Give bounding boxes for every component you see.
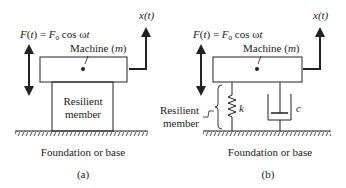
- panel-a: F(t) = F0 cos ωt Machine (m) x(t) Resili…: [15, 9, 155, 181]
- panel-b: F(t) = F0 cos ωt Machine (m) x(t) k c Re…: [160, 9, 331, 181]
- force-label: F(t) = F0 cos ωt: [19, 28, 90, 42]
- force-label: F(t) = F0 cos ωt: [192, 28, 263, 42]
- machine-label: Machine (m): [243, 42, 300, 55]
- brace-icon: [215, 85, 222, 129]
- ground-hatching: [203, 131, 331, 136]
- member-leader-line: [203, 111, 214, 117]
- damper-icon: [268, 82, 291, 131]
- resilient-member-label-line1: Resilient: [160, 104, 199, 116]
- center-of-mass-dot: [81, 67, 85, 71]
- panel-caption-a: (a): [77, 168, 90, 181]
- resilient-member-label-line2: member: [65, 108, 101, 120]
- machine-label: Machine (m): [70, 42, 127, 55]
- displacement-label: x(t): [312, 9, 329, 22]
- foundation-label: Foundation or base: [228, 146, 312, 158]
- displacement-label: x(t): [138, 9, 155, 22]
- resilient-member-label-line2: member: [163, 117, 199, 129]
- vibration-isolation-diagram: F(t) = F0 cos ωt Machine (m) x(t) Resili…: [0, 0, 346, 188]
- ground-hatching: [15, 131, 148, 136]
- panel-caption-b: (b): [262, 168, 275, 181]
- foundation-label: Foundation or base: [41, 146, 125, 158]
- center-of-mass-dot: [255, 67, 259, 71]
- spring-icon: [228, 82, 236, 131]
- displacement-arrow-icon: [129, 29, 146, 69]
- displacement-arrow-icon: [303, 29, 320, 69]
- damping-coefficient-label: c: [296, 102, 301, 114]
- spring-constant-label: k: [239, 102, 245, 114]
- resilient-member-label-line1: Resilient: [63, 95, 102, 107]
